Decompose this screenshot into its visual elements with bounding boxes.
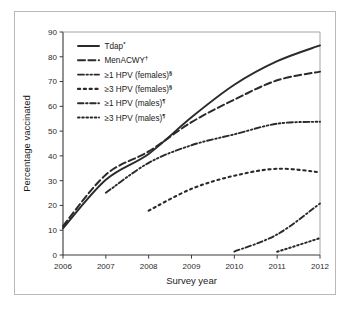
y-tick-label: 60: [48, 102, 57, 111]
x-tick-label: 2008: [140, 262, 158, 271]
x-tick-label: 2010: [225, 262, 243, 271]
y-tick-label: 30: [48, 177, 57, 186]
x-tick-label: 2009: [183, 262, 201, 271]
legend-label-1: MenACWY†: [105, 55, 149, 65]
x-tick-label: 2007: [97, 262, 115, 271]
y-tick-label: 50: [48, 127, 57, 136]
y-tick-label: 10: [48, 226, 57, 235]
series-line-1: [63, 72, 320, 226]
legend-label-4: ≥1 HPV (males)¶: [105, 98, 166, 108]
y-tick-label: 20: [48, 201, 57, 210]
legend-label-2: ≥1 HPV (females)§: [105, 70, 173, 80]
y-tick-label: 40: [48, 152, 57, 161]
series-line-0: [63, 45, 320, 228]
x-tick-label: 2012: [311, 262, 329, 271]
y-tick-label: 0: [53, 251, 58, 260]
x-tick-label: 2006: [54, 262, 72, 271]
x-tick-label: 2011: [269, 262, 287, 271]
series-line-5: [277, 238, 320, 252]
plot-frame-top-right: [63, 32, 320, 255]
y-tick-label: 80: [48, 53, 57, 62]
x-axis-title: Survey year: [166, 275, 217, 286]
y-tick-label: 90: [48, 28, 57, 37]
legend-label-3: ≥3 HPV (females)§: [105, 84, 173, 94]
y-tick-label: 70: [48, 77, 57, 86]
plot-axes: [63, 32, 320, 255]
series-line-3: [149, 169, 320, 211]
series-line-4: [234, 203, 320, 251]
legend-label-0: Tdap*: [105, 41, 127, 51]
y-axis-title: Percentage vaccinated: [21, 95, 32, 192]
legend-label-5: ≥3 HPV (males)¶: [105, 113, 166, 123]
figure-container: 0102030405060708090200620072008200920102…: [0, 0, 351, 312]
line-chart: 0102030405060708090200620072008200920102…: [0, 0, 351, 312]
